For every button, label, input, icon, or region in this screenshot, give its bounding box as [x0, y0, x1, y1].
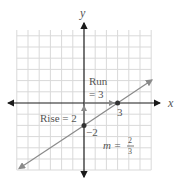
rise-label: Rise = 2	[40, 112, 77, 124]
slope-label: m =	[103, 139, 121, 151]
slope-denominator: 3	[128, 147, 132, 156]
slope-numerator: 2	[128, 136, 132, 145]
y-intercept-label: −2	[86, 126, 98, 138]
x-intercept-label: 3	[117, 106, 123, 118]
run-label: Run	[89, 75, 108, 87]
graphed-line-neg	[19, 125, 84, 168]
x-intercept-point	[115, 101, 120, 106]
run-value-label: = 3	[89, 88, 104, 100]
y-axis-label: y	[79, 6, 86, 20]
coordinate-plane: y x Run = 3 Rise = 2 3 −2 m = 2 3	[0, 0, 175, 179]
x-axis-label: x	[167, 96, 174, 110]
